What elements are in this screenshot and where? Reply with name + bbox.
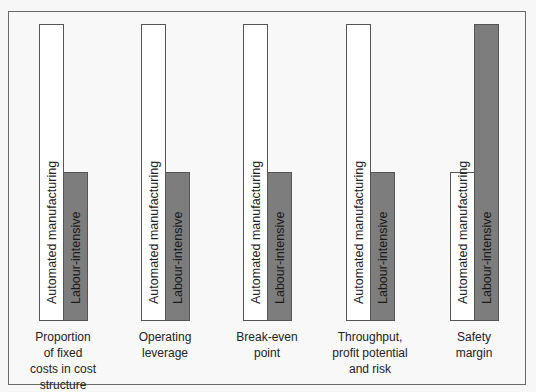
group-safety-margin: Automated manufacturing Labour-intensive… <box>0 0 536 392</box>
labour-bar: Labour-intensive <box>474 24 499 321</box>
caption-line: Safety <box>419 329 529 345</box>
group-caption: Safety margin <box>419 329 529 361</box>
labour-label: Labour-intensive <box>480 211 493 303</box>
automated-label: Automated manufacturing <box>456 160 469 303</box>
caption-line: margin <box>419 345 529 361</box>
automated-bar: Automated manufacturing <box>450 172 475 321</box>
